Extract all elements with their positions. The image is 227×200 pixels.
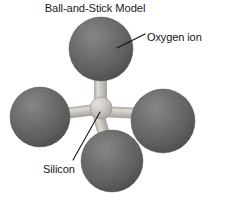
oxygen-ion-right — [131, 89, 195, 153]
label-oxygen-ion: Oxygen ion — [147, 31, 202, 44]
label-silicon: Silicon — [43, 163, 75, 176]
silicon-center-atom — [90, 97, 112, 119]
oxygen-ion-top — [69, 17, 133, 81]
ball-and-stick-diagram — [0, 0, 227, 200]
oxygen-ion-bottom — [81, 130, 143, 192]
figure-root: Ball-and-Stick Model — [0, 0, 227, 200]
oxygen-ion-left — [10, 87, 70, 147]
